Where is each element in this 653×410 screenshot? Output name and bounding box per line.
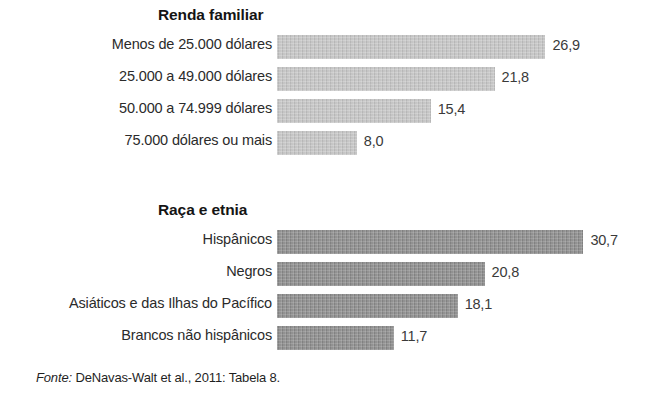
value-label: 20,8 (492, 264, 519, 280)
value-label: 26,9 (552, 37, 579, 53)
group-title: Renda familiar (158, 6, 263, 24)
category-label: 75.000 dólares ou mais (0, 132, 272, 148)
bar (277, 67, 495, 91)
bar (277, 99, 431, 123)
value-label: 15,4 (438, 101, 465, 117)
category-label: 50.000 a 74.999 dólares (0, 100, 272, 116)
bar-container (277, 326, 394, 350)
bar (277, 35, 545, 59)
table-row: Brancos não hispânicos 11,7 (0, 325, 653, 355)
bar-container (277, 131, 357, 155)
bar-chart-figure: Renda familiar Menos de 25.000 dólares 2… (0, 0, 653, 410)
value-label: 21,8 (502, 69, 529, 85)
table-row: 25.000 a 49.000 dólares 21,8 (0, 66, 653, 96)
value-label: 18,1 (465, 296, 492, 312)
source-prefix: Fonte: (36, 370, 72, 385)
group-title: Raça e etnia (158, 201, 247, 219)
bar (277, 262, 485, 286)
bar-container (277, 67, 495, 91)
value-label: 11,7 (401, 328, 427, 344)
bar-container (277, 35, 545, 59)
category-label: Menos de 25.000 dólares (0, 36, 272, 52)
table-row: 50.000 a 74.999 dólares 15,4 (0, 98, 653, 128)
category-label: Brancos não hispânicos (0, 327, 272, 343)
bar-container (277, 262, 485, 286)
value-label: 8,0 (364, 133, 384, 149)
category-label: Asiáticos e das Ilhas do Pacífico (0, 295, 272, 311)
bar-container (277, 230, 583, 254)
source-note: Fonte: DeNavas-Walt et al., 2011: Tabela… (36, 370, 280, 385)
category-label: Negros (0, 263, 272, 279)
table-row: Hispânicos 30,7 (0, 229, 653, 259)
bar-container (277, 99, 431, 123)
bar (277, 131, 357, 155)
category-label: Hispânicos (0, 231, 272, 247)
table-row: Asiáticos e das Ilhas do Pacífico 18,1 (0, 293, 653, 323)
bar-container (277, 294, 458, 318)
bar (277, 230, 583, 254)
table-row: Negros 20,8 (0, 261, 653, 291)
value-label: 30,7 (590, 232, 617, 248)
table-row: 75.000 dólares ou mais 8,0 (0, 130, 653, 160)
bar (277, 294, 458, 318)
bar (277, 326, 394, 350)
table-row: Menos de 25.000 dólares 26,9 (0, 34, 653, 64)
category-label: 25.000 a 49.000 dólares (0, 68, 272, 84)
source-text: DeNavas-Walt et al., 2011: Tabela 8. (72, 370, 280, 385)
